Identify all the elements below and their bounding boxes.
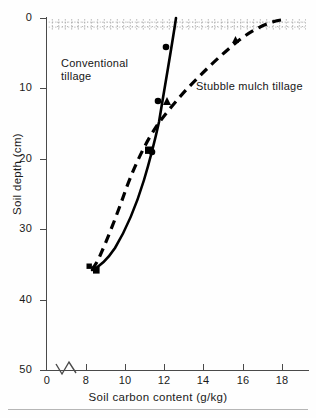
annotation-conventional-line2: tillage <box>61 70 153 83</box>
soil-carbon-depth-figure: 0 10 20 30 40 50 0 8 10 12 14 16 18 Conv… <box>0 0 316 418</box>
plot-curves <box>0 0 316 418</box>
series-conventional-tillage-line <box>92 18 176 270</box>
marker-square-conventional-34cm <box>87 264 92 269</box>
annotation-stubble-mulch-tillage: Stubble mulch tillage <box>196 80 312 93</box>
marker-square-shared-34cm <box>93 267 100 274</box>
page-bottom-rule <box>8 409 308 410</box>
x-axis-title: Soil carbon content (g/kg) <box>0 391 316 403</box>
x-axis-break-zigzag <box>56 362 76 374</box>
y-axis-title: Soil depth (cm) <box>11 109 23 239</box>
marker-circle-conventional-12cm <box>155 98 162 105</box>
annotation-conventional-line1: Conventional <box>61 57 153 70</box>
annotation-conventional-tillage: Conventional tillage <box>61 57 153 82</box>
marker-circle-conventional-4cm <box>163 44 170 51</box>
marker-square-shared-19cm <box>145 147 152 154</box>
